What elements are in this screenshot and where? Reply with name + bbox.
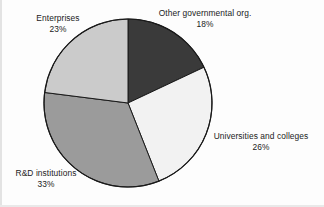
pie-chart-figure: Enterprises 23% Other governmental org. … [0,0,324,207]
slice-label-enterprises: Enterprises 23% [19,13,97,34]
slice-label-enterprises-value: 23% [19,24,97,35]
slice-label-other-governmental-org-value: 18% [144,19,266,30]
slice-label-universities-and-colleges-value: 26% [202,142,320,153]
slice-label-rd-institutions-value: 33% [3,179,89,190]
slice-label-other-governmental-org-text: Other governmental org. [159,8,252,18]
slice-label-universities-and-colleges-text: Universities and colleges [214,131,309,141]
slice-label-rd-institutions: R&D institutions 33% [3,168,89,189]
slice-label-rd-institutions-text: R&D institutions [16,168,77,178]
pie-slice-group [44,19,212,187]
slice-label-enterprises-text: Enterprises [36,13,79,23]
slice-label-universities-and-colleges: Universities and colleges 26% [202,131,320,152]
slice-label-other-governmental-org: Other governmental org. 18% [144,8,266,29]
